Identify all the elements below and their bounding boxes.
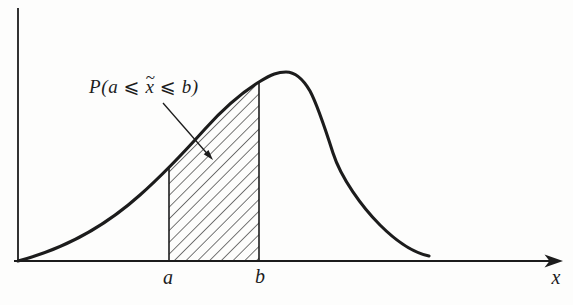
label-a: a (163, 267, 173, 287)
probability-label-suffix: ⩽ b) (155, 76, 199, 97)
annotation-arrow-line (163, 103, 208, 154)
shaded-probability-region (169, 82, 259, 261)
figure-canvas (0, 0, 573, 305)
probability-label: P(a ⩽ ~x ⩽ b) (89, 75, 199, 98)
tilde-accent: ~ (146, 69, 156, 86)
probability-label-prefix: P(a ⩽ (89, 76, 145, 97)
label-b: b (255, 266, 265, 286)
x-tilde-variable: ~x (145, 77, 154, 96)
label-x-axis: x (552, 267, 561, 287)
density-figure: P(a ⩽ ~x ⩽ b) a b x (0, 0, 573, 305)
